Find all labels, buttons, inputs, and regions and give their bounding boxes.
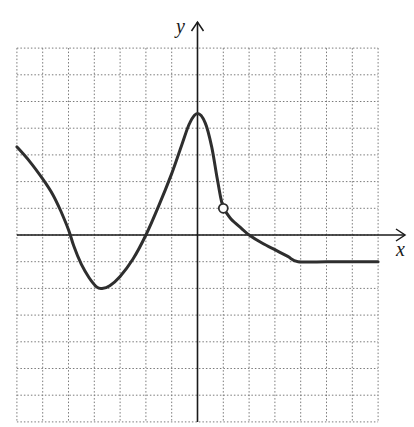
function-graph: x y [0,0,414,427]
markers [219,204,228,213]
axes: x y [17,15,405,422]
open-circle-icon [219,204,228,213]
x-axis-label: x [395,238,405,260]
y-axis-label: y [174,15,185,38]
